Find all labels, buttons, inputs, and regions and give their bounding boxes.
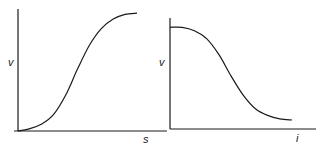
curve-left — [18, 13, 137, 131]
chart-right: v i — [159, 18, 316, 144]
chart-left: v s — [8, 9, 167, 145]
x-label-left: s — [143, 133, 149, 145]
curve-right — [170, 27, 292, 120]
x-label-right: i — [296, 132, 299, 144]
y-label-right: v — [159, 56, 166, 68]
diagram-canvas: v s v i — [0, 0, 322, 147]
y-label-left: v — [8, 56, 15, 68]
